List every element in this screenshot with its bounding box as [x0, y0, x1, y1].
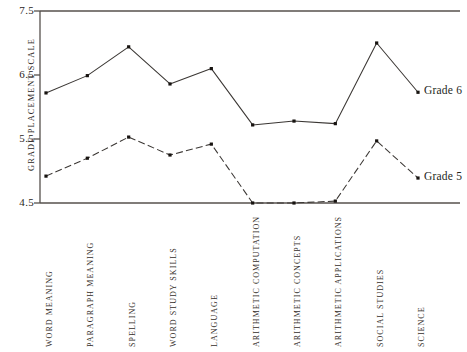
data-point-marker	[44, 91, 47, 94]
data-point-marker	[210, 143, 213, 146]
x-tick-label: PARAGRAPH MEANING	[86, 242, 95, 347]
data-point-marker	[210, 67, 213, 70]
data-point-marker	[127, 45, 130, 48]
data-point-marker	[416, 91, 419, 94]
series-label-grade-5: Grade 5	[424, 170, 462, 182]
data-point-marker	[86, 157, 89, 160]
x-tick-label: SCIENCE	[417, 306, 426, 347]
data-point-marker	[292, 201, 295, 204]
x-tick-label: SOCIAL STUDIES	[376, 269, 385, 347]
x-tick-label: SPELLING	[128, 301, 137, 347]
data-point-marker	[375, 41, 378, 44]
data-point-marker	[416, 176, 419, 179]
data-point-marker	[44, 175, 47, 178]
series-label-grade-6: Grade 6	[424, 84, 462, 96]
data-point-marker	[334, 199, 337, 202]
data-point-marker	[86, 74, 89, 77]
x-tick-label: ARITHMETIC CONCEPTS	[293, 235, 302, 347]
x-tick-label: WORD MEANING	[45, 270, 54, 347]
y-tick-label: 6.5	[0, 68, 34, 80]
series-line-grade-5	[46, 137, 418, 203]
x-tick-label: LANGUAGE	[210, 294, 219, 347]
data-point-marker	[127, 135, 130, 138]
x-tick-label: ARITHMETIC COMPUTATION	[252, 216, 261, 347]
data-point-marker	[375, 139, 378, 142]
y-tick-label: 7.5	[0, 4, 34, 16]
x-tick-label: WORD STUDY SKILLS	[169, 247, 178, 347]
y-tick-label: 5.5	[0, 132, 34, 144]
line-chart-plot	[0, 0, 467, 352]
chart-container: GRADE PLACEMENT SCALE 4.55.56.57.5 WORD …	[0, 0, 467, 352]
data-point-marker	[292, 119, 295, 122]
data-point-marker	[168, 153, 171, 156]
data-point-marker	[251, 123, 254, 126]
y-tick-label: 4.5	[0, 196, 34, 208]
data-point-marker	[334, 122, 337, 125]
data-point-marker	[168, 82, 171, 85]
x-tick-label: ARITHMETIC APPLICATIONS	[334, 216, 343, 347]
series-line-grade-6	[46, 43, 418, 125]
data-point-marker	[251, 201, 254, 204]
